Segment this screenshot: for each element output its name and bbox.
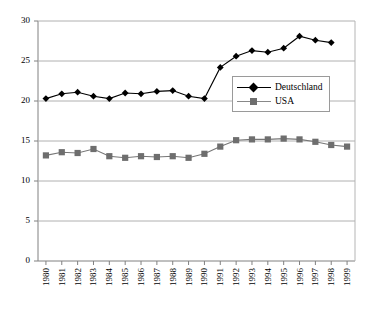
- x-axis-tick-label: 1984: [104, 268, 114, 286]
- data-point-marker: [75, 150, 81, 156]
- data-point-marker: [249, 47, 256, 54]
- gridlines: [38, 21, 355, 221]
- data-point-marker: [312, 139, 318, 145]
- x-axis-tick-label: 1981: [57, 268, 67, 286]
- data-point-marker: [58, 90, 65, 97]
- data-point-marker: [344, 144, 350, 150]
- x-axis-tick-label: 1985: [120, 268, 130, 286]
- data-point-marker: [296, 136, 302, 142]
- data-point-marker: [59, 149, 65, 155]
- data-point-marker: [233, 53, 240, 60]
- x-axis-tick-label: 1980: [41, 268, 51, 286]
- data-point-marker: [328, 39, 335, 46]
- x-axis-tick-label: 1997: [310, 268, 320, 286]
- data-point-marker: [201, 151, 207, 157]
- x-axis-tick-label: 1993: [247, 268, 257, 286]
- data-point-marker: [122, 155, 128, 161]
- y-axis-tick-label: 0: [4, 255, 30, 265]
- data-point-marker: [328, 142, 334, 148]
- data-point-marker: [265, 136, 271, 142]
- x-axis-tick-label: 1992: [231, 268, 241, 286]
- legend-marker-diamond-icon: [237, 81, 271, 93]
- data-point-marker: [169, 87, 176, 94]
- data-point-marker: [90, 93, 97, 100]
- legend-item-deutschland: Deutschland: [237, 80, 323, 94]
- data-point-marker: [153, 88, 160, 95]
- x-axis-tick-label: 1987: [152, 268, 162, 286]
- data-point-marker: [185, 155, 191, 161]
- legend-marker-square-icon: [237, 95, 271, 107]
- x-axis-tick-label: 1990: [199, 268, 209, 286]
- data-point-marker: [90, 146, 96, 152]
- data-point-marker: [249, 136, 255, 142]
- data-point-marker: [170, 153, 176, 159]
- data-point-marker: [233, 137, 239, 143]
- x-axis-tick-label: 1982: [73, 268, 83, 286]
- y-axis-tick-label: 15: [4, 135, 30, 145]
- y-axis-ticks: [34, 21, 38, 261]
- legend-item-usa: USA: [237, 94, 323, 108]
- x-axis-tick-label: 1994: [263, 268, 273, 286]
- data-point-marker: [264, 49, 271, 56]
- data-point-marker: [281, 136, 287, 142]
- x-axis-tick-label: 1988: [168, 268, 178, 286]
- x-axis-tick-label: 1986: [136, 268, 146, 286]
- y-axis-tick-label: 30: [4, 15, 30, 25]
- x-axis-ticks: [46, 261, 347, 265]
- x-axis-tick-label: 1998: [326, 268, 336, 286]
- x-axis-tick-label: 1995: [279, 268, 289, 286]
- legend-label-usa: USA: [275, 96, 294, 106]
- data-point-marker: [106, 153, 112, 159]
- data-point-marker: [43, 152, 49, 158]
- data-point-marker: [154, 154, 160, 160]
- data-point-marker: [138, 153, 144, 159]
- x-axis-tick-label: 1996: [295, 268, 305, 286]
- data-point-marker: [185, 93, 192, 100]
- x-axis-tick-label: 1991: [215, 268, 225, 286]
- chart-container: 051015202530 198019811982198319841985198…: [0, 0, 372, 315]
- x-axis-tick-label: 1983: [88, 268, 98, 286]
- x-axis-tick-label: 1999: [342, 268, 352, 286]
- data-point-marker: [217, 64, 224, 71]
- data-point-marker: [122, 90, 129, 97]
- y-axis-tick-label: 5: [4, 215, 30, 225]
- y-axis-tick-label: 25: [4, 55, 30, 65]
- x-axis-tick-label: 1989: [184, 268, 194, 286]
- data-point-marker: [74, 89, 81, 96]
- y-axis-tick-label: 10: [4, 175, 30, 185]
- data-point-marker: [312, 37, 319, 44]
- legend-label-deutschland: Deutschland: [275, 82, 323, 92]
- y-axis-tick-label: 20: [4, 95, 30, 105]
- chart-legend: Deutschland USA: [232, 76, 330, 112]
- data-point-marker: [217, 144, 223, 150]
- data-point-marker: [138, 90, 145, 97]
